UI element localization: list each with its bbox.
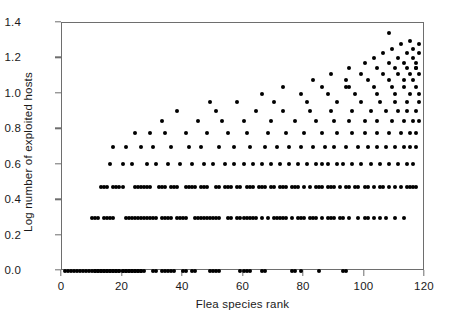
data-point	[411, 56, 415, 60]
data-point	[381, 51, 385, 55]
data-point	[290, 216, 294, 220]
data-point	[133, 131, 137, 135]
data-point	[226, 131, 230, 135]
data-point	[296, 162, 300, 166]
data-point	[335, 131, 339, 135]
data-point	[323, 145, 327, 149]
data-point	[329, 109, 333, 113]
data-point	[417, 100, 421, 104]
data-point	[375, 92, 379, 96]
data-point	[359, 72, 363, 76]
data-point	[408, 72, 412, 76]
data-point	[217, 145, 221, 149]
data-point	[366, 185, 370, 189]
data-point	[405, 100, 409, 104]
x-tick-mark	[423, 270, 424, 276]
data-point	[378, 216, 382, 220]
data-point	[296, 185, 300, 189]
data-point	[332, 145, 336, 149]
data-point	[151, 145, 155, 149]
data-point	[305, 162, 309, 166]
data-point	[381, 185, 385, 189]
data-point	[363, 119, 367, 123]
data-point	[242, 162, 246, 166]
scatter-plot-figure: 0.00.20.40.60.81.01.21.4 020406080100120…	[0, 0, 455, 323]
data-point	[145, 162, 149, 166]
data-point	[287, 162, 291, 166]
data-point	[366, 78, 370, 82]
data-point	[408, 92, 412, 96]
data-point	[405, 109, 409, 113]
data-point	[417, 92, 421, 96]
data-point	[375, 131, 379, 135]
data-point	[111, 145, 115, 149]
data-point	[242, 119, 246, 123]
x-tick-label: 60	[236, 280, 249, 292]
data-point	[263, 269, 267, 273]
data-point	[396, 72, 400, 76]
data-point	[232, 162, 236, 166]
data-point	[408, 131, 412, 135]
data-point	[363, 131, 367, 135]
data-point	[163, 185, 167, 189]
data-point	[332, 216, 336, 220]
data-point	[139, 145, 143, 149]
data-point	[402, 78, 406, 82]
data-point	[372, 85, 376, 89]
data-point	[320, 216, 324, 220]
data-point	[378, 162, 382, 166]
data-point	[402, 85, 406, 89]
data-point	[254, 216, 258, 220]
data-point	[160, 119, 164, 123]
data-point	[263, 185, 267, 189]
data-point	[387, 185, 391, 189]
data-point	[187, 145, 191, 149]
x-tick-label: 0	[58, 280, 65, 292]
data-point	[347, 216, 351, 220]
data-point	[275, 145, 279, 149]
data-point	[245, 131, 249, 135]
data-point	[302, 131, 306, 135]
data-point	[105, 185, 109, 189]
x-tick-label: 100	[354, 280, 374, 292]
data-point	[414, 66, 418, 70]
data-point	[163, 131, 167, 135]
data-point	[405, 162, 409, 166]
data-point	[387, 162, 391, 166]
data-point	[124, 145, 128, 149]
data-point	[284, 216, 288, 220]
data-point	[263, 145, 267, 149]
data-point	[248, 145, 252, 149]
data-point	[387, 61, 391, 65]
x-axis-title: Flea species rank	[61, 298, 424, 310]
data-point	[393, 100, 397, 104]
data-point	[344, 145, 348, 149]
data-point	[356, 145, 360, 149]
data-point	[381, 72, 385, 76]
data-point	[335, 100, 339, 104]
data-point	[314, 162, 318, 166]
data-point	[326, 162, 330, 166]
data-point	[169, 145, 173, 149]
data-point	[281, 109, 285, 113]
data-point	[196, 119, 200, 123]
data-point	[254, 109, 258, 113]
data-point	[387, 131, 391, 135]
data-point	[272, 100, 276, 104]
data-point	[320, 131, 324, 135]
data-point	[417, 72, 421, 76]
data-point	[311, 78, 315, 82]
data-point	[130, 162, 134, 166]
data-point	[359, 162, 363, 166]
data-point	[372, 216, 376, 220]
data-point	[414, 185, 418, 189]
data-point	[302, 185, 306, 189]
data-point	[299, 269, 303, 273]
data-point	[223, 162, 227, 166]
data-point	[326, 92, 330, 96]
data-point	[408, 145, 412, 149]
data-point	[393, 216, 397, 220]
data-point	[399, 185, 403, 189]
data-point	[190, 162, 194, 166]
data-point	[269, 162, 273, 166]
